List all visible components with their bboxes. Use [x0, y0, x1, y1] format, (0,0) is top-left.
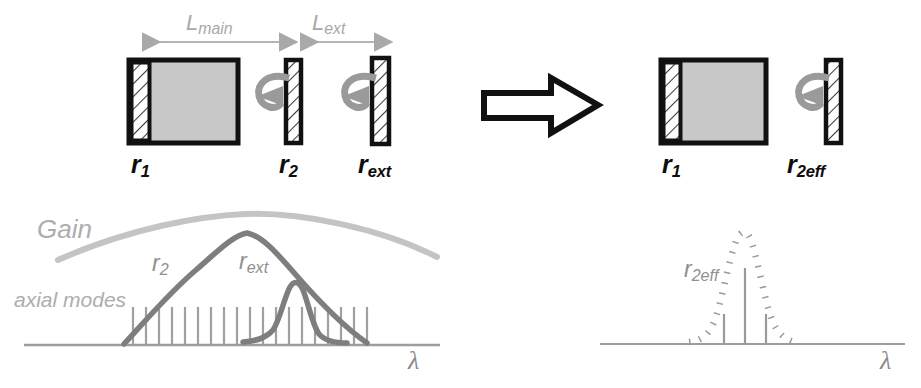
figure-text-layer: Lmain Lext r1 r2 rext r1 r2eff Gain axia… — [0, 0, 921, 388]
plot-annotation-rext: rext — [239, 250, 268, 273]
dimension-label-l-ext: Lext — [312, 12, 345, 34]
label-r2eff: r2eff — [787, 152, 825, 177]
plot-annotation-gain: Gain — [37, 216, 92, 242]
axis-label-lambda-left: λ — [408, 348, 419, 374]
label-rext: rext — [358, 152, 391, 177]
label-r1-right: r1 — [662, 152, 681, 177]
plot-annotation-r2: r2 — [152, 252, 169, 275]
label-r1-left: r1 — [131, 152, 150, 177]
dimension-label-l-main: Lmain — [186, 12, 233, 34]
axis-label-lambda-right: λ — [880, 348, 891, 374]
figure-root: Lmain Lext r1 r2 rext r1 r2eff Gain axia… — [0, 0, 921, 388]
label-r2: r2 — [279, 152, 298, 177]
plot-annotation-axial-modes: axial modes — [14, 289, 126, 310]
plot-annotation-r2eff: r2eff — [684, 258, 719, 281]
